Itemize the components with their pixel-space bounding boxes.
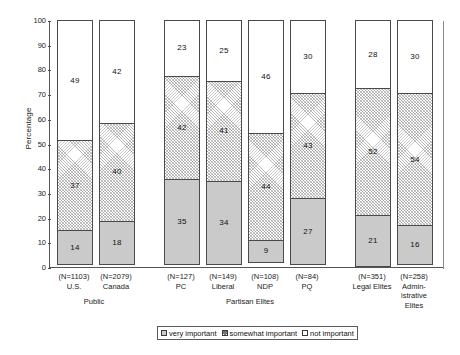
- bar-segment-not-important[interactable]: 42: [99, 20, 135, 124]
- bar-segment-value: 40: [112, 168, 122, 176]
- bar-segment-value: 44: [261, 183, 271, 191]
- y-tick-label: 60: [24, 116, 46, 124]
- bar-segment-value: 30: [410, 53, 420, 61]
- legend-swatch-not-important-icon: [302, 330, 308, 336]
- bar-segment-very-important[interactable]: 35: [164, 179, 200, 265]
- bar-segment-somewhat-important[interactable]: 42: [164, 76, 200, 180]
- stacked-bar-chart: Percentage 1009080706050403020100 493714…: [0, 0, 460, 355]
- bar-segment-value: 41: [219, 127, 229, 135]
- legend-label-not-important: not important: [310, 329, 354, 338]
- bar-segment-not-important[interactable]: 30: [290, 20, 326, 94]
- bar-segment-value: 34: [219, 219, 229, 227]
- bar-segment-very-important[interactable]: 18: [99, 221, 135, 265]
- y-tick-label: 100: [24, 17, 46, 25]
- bar-segment-value: 42: [177, 124, 187, 132]
- bar-segment-value: 49: [70, 77, 80, 85]
- bar-ndp[interactable]: 46449: [248, 20, 284, 267]
- legend-swatch-very-important-icon: [161, 330, 167, 336]
- y-tick-label: 50: [24, 141, 46, 149]
- bar-segment-not-important[interactable]: 23: [164, 20, 200, 77]
- x-axis-label-group: (N=84)PQ: [281, 272, 333, 291]
- bar-segment-very-important[interactable]: 9: [248, 240, 284, 262]
- group-label-public: Public: [34, 297, 154, 306]
- category-label: Elites: [388, 301, 440, 311]
- bar-segment-very-important[interactable]: 27: [290, 198, 326, 265]
- y-tick-label: 10: [24, 239, 46, 247]
- bar-segment-value: 35: [177, 218, 187, 226]
- legend-item-very-important[interactable]: very important: [161, 329, 217, 338]
- category-label: Canada: [90, 282, 142, 292]
- bar-segment-value: 28: [368, 51, 378, 59]
- bar-segment-value: 30: [303, 53, 313, 61]
- y-tick-label: 40: [24, 165, 46, 173]
- legend: very important somewhat important not im…: [157, 326, 358, 340]
- bar-segment-value: 25: [219, 47, 229, 55]
- plot-area: 4937144240182342352541344644930432728522…: [49, 21, 443, 268]
- y-tick-label: 80: [24, 66, 46, 74]
- sample-size-label: (N=84): [281, 272, 333, 282]
- bar-segment-value: 14: [70, 244, 80, 252]
- y-tick-label: 20: [24, 215, 46, 223]
- bar-liberal[interactable]: 254134: [206, 20, 242, 267]
- bar-segment-very-important[interactable]: 16: [397, 225, 433, 265]
- plot-right-border: [443, 21, 444, 269]
- legend-label-very-important: very important: [169, 329, 217, 338]
- bar-segment-value: 9: [264, 247, 269, 255]
- category-label: Admin-: [388, 282, 440, 292]
- bar-canada[interactable]: 424018: [99, 20, 135, 267]
- bar-pq[interactable]: 304327: [290, 20, 326, 267]
- bar-segment-somewhat-important[interactable]: 43: [290, 93, 326, 199]
- bar-segment-value: 23: [177, 44, 187, 52]
- sample-size-label: (N=2079): [90, 272, 142, 282]
- category-label: PQ: [281, 282, 333, 292]
- legend-item-somewhat-important[interactable]: somewhat important: [222, 329, 298, 338]
- bar-segment-somewhat-important[interactable]: 52: [355, 88, 391, 216]
- y-tick-label: 0: [24, 264, 46, 272]
- bar-segment-very-important[interactable]: 21: [355, 215, 391, 267]
- bar-segment-value: 37: [70, 182, 80, 190]
- y-tick-mark: [48, 268, 51, 269]
- bar-segment-value: 43: [303, 142, 313, 150]
- category-label: istrative: [388, 291, 440, 301]
- x-axis-label-group: (N=258)Admin-istrativeElites: [388, 272, 440, 310]
- bar-segment-not-important[interactable]: 28: [355, 20, 391, 89]
- bar-segment-not-important[interactable]: 46: [248, 20, 284, 134]
- legend-label-somewhat-important: somewhat important: [230, 329, 298, 338]
- x-axis-label-group: (N=2079)Canada: [90, 272, 142, 291]
- bar-segment-value: 27: [303, 228, 313, 236]
- bar-segment-value: 54: [410, 156, 420, 164]
- sample-size-label: (N=258): [388, 272, 440, 282]
- bar-segment-value: 18: [112, 239, 122, 247]
- bar-segment-very-important[interactable]: 34: [206, 181, 242, 265]
- legend-swatch-somewhat-important-icon: [222, 330, 228, 336]
- y-tick-label: 30: [24, 190, 46, 198]
- bar-u-s-[interactable]: 493714: [57, 20, 93, 267]
- bar-segment-somewhat-important[interactable]: 41: [206, 81, 242, 182]
- bar-segment-value: 16: [410, 241, 420, 249]
- bar-segment-value: 52: [368, 148, 378, 156]
- legend-item-not-important[interactable]: not important: [302, 329, 354, 338]
- bar-segment-value: 42: [112, 68, 122, 76]
- bar-segment-not-important[interactable]: 25: [206, 20, 242, 82]
- bar-segment-somewhat-important[interactable]: 54: [397, 93, 433, 226]
- y-tick-label: 70: [24, 91, 46, 99]
- bar-admin-[interactable]: 305416: [397, 20, 433, 267]
- bar-segment-somewhat-important[interactable]: 37: [57, 140, 93, 231]
- bar-segment-somewhat-important[interactable]: 44: [248, 133, 284, 242]
- bar-segment-not-important[interactable]: 49: [57, 20, 93, 141]
- bar-segment-somewhat-important[interactable]: 40: [99, 123, 135, 222]
- bar-segment-value: 21: [368, 237, 378, 245]
- bar-pc[interactable]: 234235: [164, 20, 200, 267]
- bar-segment-value: 46: [261, 73, 271, 81]
- bar-segment-very-important[interactable]: 14: [57, 230, 93, 265]
- y-tick-label: 90: [24, 42, 46, 50]
- group-label-partisan-elites: Partisan Elites: [190, 297, 310, 306]
- bar-legal-elites[interactable]: 285221: [355, 20, 391, 267]
- bar-segment-not-important[interactable]: 30: [397, 20, 433, 94]
